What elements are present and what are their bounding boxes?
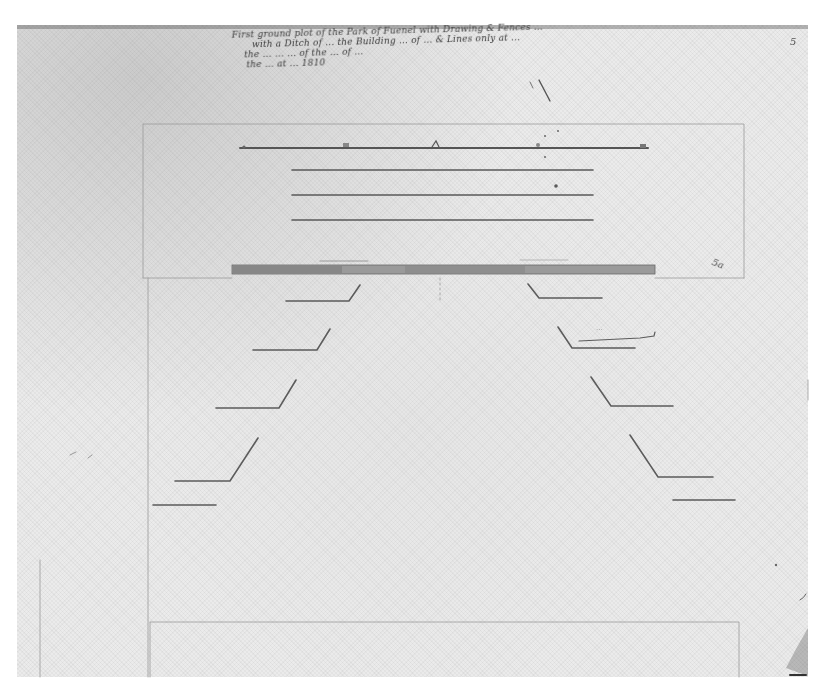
smudges: [70, 452, 808, 676]
plan-drawing: [0, 0, 829, 689]
right-steps: [528, 284, 735, 500]
frame-lines: [40, 124, 808, 677]
left-steps: [153, 285, 360, 505]
thick-band: [232, 260, 655, 274]
pencil-stroke: [530, 80, 550, 101]
top-baseline: [240, 130, 648, 158]
parallel-lines: [292, 170, 593, 220]
step-annotation: ...: [596, 324, 603, 332]
page-number-mark: 5: [790, 36, 796, 47]
